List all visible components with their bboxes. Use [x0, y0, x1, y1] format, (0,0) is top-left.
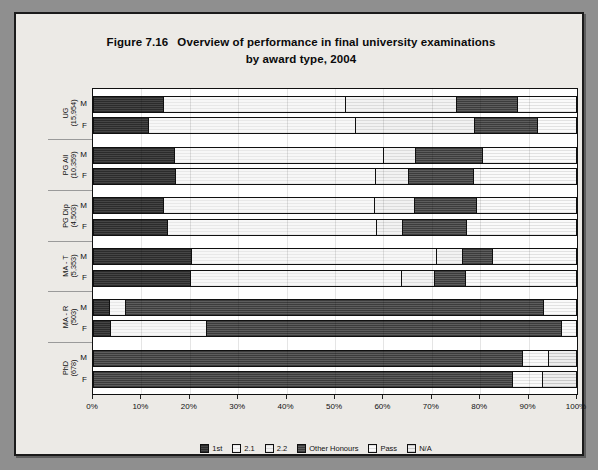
bar-segment-1st — [94, 321, 110, 336]
figure-number: Figure 7.16 — [107, 36, 169, 48]
bar-segment-2-1 — [190, 271, 400, 286]
bar-segment-na — [548, 351, 576, 366]
legend-label: 1st — [212, 444, 222, 453]
bar-segment-pass — [537, 118, 576, 133]
sex-tick-label-m: M — [80, 200, 87, 209]
bar-segment-2-2 — [355, 118, 474, 133]
x-axis-tick-label: 90% — [520, 402, 536, 411]
legend-swatch-2-1 — [232, 444, 241, 453]
x-axis-tick-label: 30% — [229, 402, 245, 411]
plot-area — [92, 88, 578, 395]
x-axis-tick — [189, 395, 190, 399]
legend-swatch-other-honours — [297, 444, 306, 453]
bar-segment-pass — [512, 372, 542, 387]
bar-segment-other-honours — [408, 169, 473, 184]
bar-segment-2-1 — [167, 220, 376, 235]
legend-item-2-1: 2.1 — [232, 444, 254, 453]
bar-segment-2-2 — [345, 97, 456, 112]
bar-segment-na — [542, 372, 576, 387]
bar-segment-2-2 — [436, 249, 462, 264]
bar-segment-pass — [522, 351, 548, 366]
bar-segment-other-honours — [456, 97, 517, 112]
x-axis-tick — [431, 395, 432, 399]
gridline — [190, 89, 191, 394]
legend-label: Other Honours — [309, 444, 358, 453]
stacked-bar-chart: UG(15,954)PG All(10,359)PG Dip(4,503)MA … — [64, 88, 564, 393]
gridline — [529, 89, 530, 394]
chart-legend: 1st2.12.2Other HonoursPassN/A — [166, 440, 466, 456]
bar-segment-pass — [473, 169, 576, 184]
bar-segment-1st — [94, 198, 163, 213]
x-axis-tick — [576, 395, 577, 399]
legend-swatch-2-2 — [265, 444, 274, 453]
bar-segment-other-honours — [415, 148, 482, 163]
legend-swatch-na — [407, 444, 416, 453]
bar-segment-2-1 — [110, 321, 206, 336]
legend-item-other-honours: Other Honours — [297, 444, 358, 453]
bar-segment-2-1 — [175, 169, 374, 184]
sex-tick-label-m: M — [80, 99, 87, 108]
sex-tick-label-f: F — [82, 323, 87, 332]
bar-segment-1st — [94, 220, 167, 235]
sex-tick-label-m: M — [80, 150, 87, 159]
sex-tick-label-m: M — [80, 353, 87, 362]
sex-tick-label-m: M — [80, 251, 87, 260]
x-axis-tick-label: 40% — [278, 402, 294, 411]
sex-tick-label-m: M — [80, 302, 87, 311]
bar-segment-2-1 — [191, 249, 436, 264]
legend-item-na: N/A — [407, 444, 432, 453]
x-axis-tick-label: 100% — [566, 402, 586, 411]
legend-item-1st: 1st — [200, 444, 222, 453]
figure-title: Figure 7.16Overview of performance in fi… — [44, 34, 558, 68]
bar-segment-2-1 — [163, 198, 374, 213]
gridline — [480, 89, 481, 394]
figure-title-line1: Overview of performance in final univers… — [177, 36, 495, 48]
bar-segment-1st — [94, 300, 109, 315]
x-axis-tick-label: 10% — [132, 402, 148, 411]
bar-segment-other-honours — [414, 198, 476, 213]
bar-segment-pass — [561, 321, 576, 336]
bar-segment-other-honours — [94, 372, 512, 387]
x-axis-tick — [140, 395, 141, 399]
x-axis-tick — [92, 395, 93, 399]
bar-segment-pass — [466, 220, 576, 235]
sex-tick-label-f: F — [82, 273, 87, 282]
legend-label: Pass — [380, 444, 397, 453]
bar-segment-1st — [94, 148, 174, 163]
bar-segment-pass — [517, 97, 576, 112]
bar-segment-pass — [543, 300, 576, 315]
legend-swatch-1st — [200, 444, 209, 453]
x-axis-tick-label: 60% — [374, 402, 390, 411]
gridline — [432, 89, 433, 394]
sex-tick-axis: MFMFMFMFMFMF — [64, 88, 92, 393]
x-axis-tick-label: 70% — [423, 402, 439, 411]
x-axis-tick — [334, 395, 335, 399]
sex-tick-label-f: F — [82, 120, 87, 129]
bar-segment-pass — [492, 249, 576, 264]
bar-segment-pass — [476, 198, 576, 213]
gridline — [287, 89, 288, 394]
figure-title-line2: by award type, 2004 — [246, 53, 357, 65]
legend-item-2-2: 2.2 — [265, 444, 287, 453]
x-axis-tick — [479, 395, 480, 399]
bar-segment-other-honours — [434, 271, 465, 286]
x-axis-tick — [286, 395, 287, 399]
x-axis-tick-label: 50% — [326, 402, 342, 411]
x-axis-tick — [237, 395, 238, 399]
sex-tick-label-f: F — [82, 222, 87, 231]
bar-segment-2-2 — [375, 169, 409, 184]
gridline — [238, 89, 239, 394]
bar-segment-1st — [94, 118, 148, 133]
gridline — [383, 89, 384, 394]
figure-card: Figure 7.16Overview of performance in fi… — [14, 12, 584, 456]
bar-segment-2-1 — [109, 300, 125, 315]
gridline — [335, 89, 336, 394]
bar-segment-2-2 — [383, 148, 415, 163]
bar-segment-2-1 — [174, 148, 384, 163]
x-axis-tick — [528, 395, 529, 399]
bar-segment-1st — [94, 169, 175, 184]
bar-segment-2-2 — [401, 271, 435, 286]
sex-tick-label-f: F — [82, 171, 87, 180]
x-axis-tick — [382, 395, 383, 399]
bar-segment-other-honours — [402, 220, 466, 235]
